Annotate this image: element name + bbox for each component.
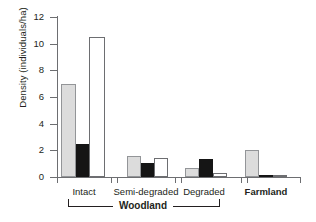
y-tick-mark [50, 70, 57, 71]
bar-intact-black [76, 144, 89, 177]
bars-layer [57, 17, 301, 177]
x-tick-mark [111, 178, 112, 183]
category-label-farmland: Farmland [221, 186, 311, 197]
bar-farmland-black [259, 175, 273, 177]
x-tick-mark [247, 178, 248, 183]
x-tick-mark [241, 178, 242, 183]
woodland-bracket-label: Woodland [113, 200, 173, 211]
x-tick-mark [175, 178, 176, 183]
y-tick-label: 10 [4, 39, 44, 49]
y-tick-label: 8 [4, 65, 44, 75]
y-tick-label: 0 [4, 172, 44, 182]
y-tick-mark [50, 44, 57, 45]
bar-intact-gray [61, 84, 76, 177]
x-tick-mark [57, 178, 58, 183]
bar-degraded-white [213, 173, 227, 177]
x-tick-mark [117, 178, 118, 183]
bar-degraded-black [199, 159, 213, 177]
bar-semi-degraded-black [141, 163, 154, 177]
bar-degraded-gray [185, 168, 199, 177]
bar-farmland-gray [245, 150, 259, 177]
y-tick-label: 12 [4, 12, 44, 22]
bar-semi-degraded-white [154, 158, 168, 177]
y-tick-mark [50, 17, 57, 18]
x-axis-line [57, 177, 301, 178]
y-tick-mark [50, 150, 57, 151]
x-tick-mark [300, 178, 301, 183]
bar-farmland-white [273, 175, 287, 177]
bar-semi-degraded-gray [127, 156, 141, 177]
x-tick-mark [181, 178, 182, 183]
density-bar-chart: Density (individuals/ha) 121086420 Intac… [0, 0, 316, 222]
y-tick-mark [50, 124, 57, 125]
y-tick-mark [50, 177, 57, 178]
y-tick-label: 6 [4, 92, 44, 102]
bar-intact-white [89, 37, 105, 177]
y-tick-label: 2 [4, 145, 44, 155]
y-tick-mark [50, 97, 57, 98]
y-tick-label: 4 [4, 119, 44, 129]
